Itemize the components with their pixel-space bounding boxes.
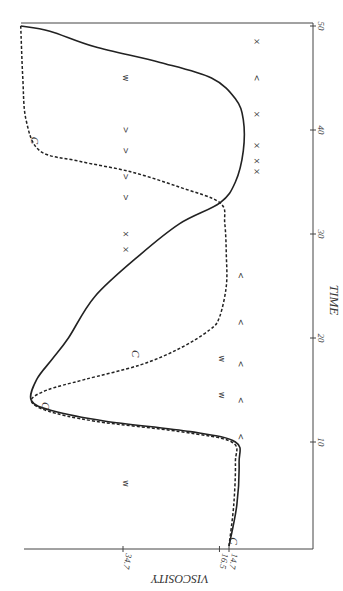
time-tick-label: 10 [316, 438, 326, 448]
viscosity-ticks: 14.716.534.7 [121, 546, 240, 570]
scatter-marker: × [252, 168, 261, 175]
curve-annotation: C [228, 537, 240, 545]
scatter-marker: < [252, 75, 261, 82]
scatter-marker: < [236, 272, 245, 279]
scatter-marker: × [252, 111, 261, 118]
time-tick-label: 30 [316, 229, 326, 240]
scatter-marker: × [252, 158, 261, 165]
curve-annotation: C [130, 350, 142, 358]
time-tick-label: 20 [316, 334, 326, 344]
scatter-marker: w [217, 392, 226, 399]
time-tick-label: 50 [316, 22, 326, 32]
curve-annotations: CCCC [29, 137, 240, 545]
time-tick-label: 40 [316, 126, 326, 136]
scatter-marker: > [121, 194, 130, 201]
scatter-marker: × [252, 142, 261, 149]
time-ticks: 1020304050 [310, 22, 326, 448]
scatter-marker: < [236, 397, 245, 404]
viscosity-axis-label: VISCOSITY [150, 572, 209, 586]
scatter-marker: > [121, 173, 130, 180]
scatter-marker: < [236, 319, 245, 326]
curve-annotation: C [29, 137, 41, 145]
time-axis-label: TIME [327, 285, 342, 315]
scatter-marker: × [121, 231, 130, 238]
scatter-marker: > [121, 147, 130, 154]
viscosity-tick-label: 34.7 [121, 552, 134, 571]
scatter-marker: < [236, 433, 245, 440]
curve-annotation: C [40, 402, 52, 410]
solid-series-line [21, 26, 245, 546]
scatter-marker: × [121, 246, 130, 253]
scatter-marker: w [121, 480, 130, 487]
scatter-marker: < [236, 361, 245, 368]
scatter-marker: > [121, 127, 130, 134]
dashed-series-line [21, 26, 237, 546]
scatter-marker: × [252, 38, 261, 45]
scatter-marker: w [217, 356, 226, 363]
scatter-marker: w [121, 75, 130, 82]
viscosity-tick-label: 16.5 [218, 553, 231, 571]
viscosity-time-chart: 1020304050 14.716.534.7 TIME VISCOSITY ×… [0, 0, 343, 591]
